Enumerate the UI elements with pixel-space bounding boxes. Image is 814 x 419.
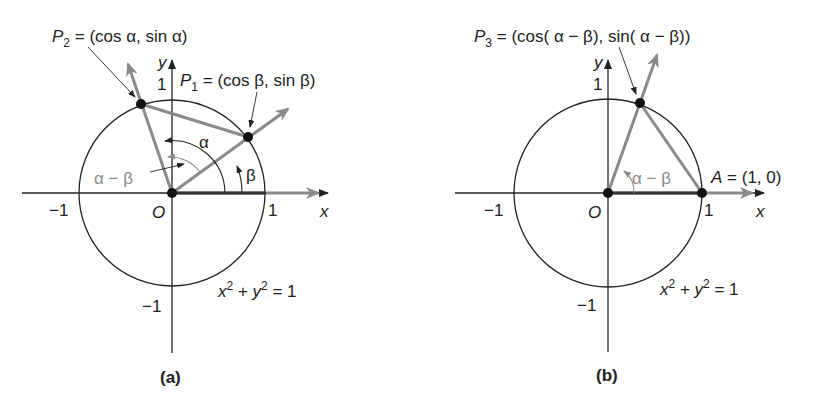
alpha-minus-beta-label: α − β: [94, 169, 133, 188]
tick-y-pos: 1: [593, 75, 602, 94]
point-p1: [243, 132, 253, 142]
beta-ray: [172, 109, 288, 193]
p3-label: P3 = (cos( α − β), sin( α − β)): [474, 27, 690, 50]
p2-pointer: [88, 47, 135, 97]
tick-y-neg: −1: [142, 297, 161, 316]
unit-circle-figure: P2 = (cos α, sin α) P1 = (cos β, sin β) …: [0, 0, 814, 419]
chord-p1-p2: [141, 104, 248, 137]
x-axis-label: x: [755, 202, 765, 221]
point-p2: [136, 99, 146, 109]
tick-x-neg: −1: [49, 201, 68, 220]
caption-a: (a): [160, 368, 181, 387]
point-origin: [167, 188, 177, 198]
p1-pointer: [250, 92, 257, 127]
tick-y-neg: −1: [577, 296, 596, 315]
tick-x-neg: −1: [484, 201, 503, 220]
x-axis-label: x: [319, 202, 329, 221]
tick-y-pos: 1: [157, 75, 166, 94]
p1-label: P1 = (cos β, sin β): [180, 71, 315, 94]
point-a: [697, 188, 707, 198]
origin-label: O: [152, 203, 165, 222]
origin-label: O: [588, 203, 601, 222]
point-p3: [635, 98, 645, 108]
tick-x-pos: 1: [268, 201, 277, 220]
y-axis-label: y: [593, 53, 604, 72]
beta-arc: [237, 166, 242, 193]
tick-x-pos: 1: [704, 201, 713, 220]
panel-b: P3 = (cos( α − β), sin( α − β)) y 1 1 x …: [455, 27, 781, 385]
caption-b: (b): [596, 366, 618, 385]
y-axis-label: y: [157, 53, 168, 72]
p2-label: P2 = (cos α, sin α): [52, 27, 187, 50]
alpha-minus-beta-label: α − β: [632, 169, 671, 188]
alpha-label: α: [199, 133, 209, 152]
p3-pointer: [619, 47, 636, 94]
circle-equation: x2 + y2 = 1: [659, 277, 739, 299]
point-origin: [603, 188, 613, 198]
circle-equation: x2 + y2 = 1: [217, 279, 297, 301]
panel-a: P2 = (cos α, sin α) P1 = (cos β, sin β) …: [22, 27, 329, 387]
alpha-minus-beta-arc: [168, 157, 200, 172]
alpha-minus-beta-pointer: [150, 164, 184, 172]
beta-label: β: [246, 166, 256, 185]
a-label: A = (1, 0): [710, 168, 781, 187]
